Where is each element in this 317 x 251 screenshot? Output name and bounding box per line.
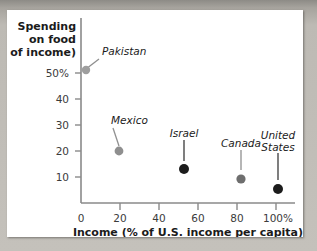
x-tick-label-40: 40 xyxy=(152,212,165,224)
y-tick-label-20: 20 xyxy=(56,145,69,157)
x-tick-label-0: 0 xyxy=(78,212,85,224)
point-label-pakistan: Pakistan xyxy=(102,45,146,57)
y-tick-label-10: 10 xyxy=(56,171,69,183)
point-label-united-states-line-2: States xyxy=(261,141,295,153)
y-tick-label-50: 50% xyxy=(46,67,69,79)
x-tick-label-60: 60 xyxy=(191,212,204,224)
y-axis-title-line-1: Spending xyxy=(18,20,76,33)
point-label-israel: Israel xyxy=(170,127,199,139)
x-tick-label-100: 100% xyxy=(263,212,293,224)
data-point-canada[interactable] xyxy=(236,174,245,183)
point-label-canada: Canada xyxy=(221,137,261,149)
chart-panel: Spending on food (% of income) 10 20 30 … xyxy=(7,10,303,237)
x-axis-title: Income (% of U.S. income per capita) xyxy=(73,226,303,237)
y-axis-title-line-3: (% of income) xyxy=(7,46,76,59)
leader-line-mexico xyxy=(113,128,119,146)
data-point-pakistan[interactable] xyxy=(82,66,90,74)
scatter-plot: Spending on food (% of income) 10 20 30 … xyxy=(7,10,303,237)
point-label-mexico: Mexico xyxy=(111,114,148,126)
y-axis-title-line-2: on food xyxy=(29,33,76,46)
x-tick-label-80: 80 xyxy=(230,212,243,224)
y-tick-label-40: 40 xyxy=(56,93,69,105)
x-tick-label-20: 20 xyxy=(113,212,126,224)
y-tick-label-30: 30 xyxy=(56,119,69,131)
data-point-united-states[interactable] xyxy=(273,184,283,194)
point-label-united-states-line-1: United xyxy=(261,129,296,141)
figure-background: Spending on food (% of income) 10 20 30 … xyxy=(0,0,317,251)
data-point-israel[interactable] xyxy=(179,164,189,174)
data-point-mexico[interactable] xyxy=(115,147,124,156)
